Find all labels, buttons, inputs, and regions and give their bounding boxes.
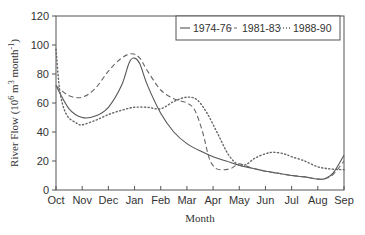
river-flow-chart: 020406080100120 OctNovDecJanFebMarAprMay… xyxy=(0,0,365,235)
plot-frame xyxy=(56,16,344,190)
y-tick-label: 120 xyxy=(31,10,49,22)
y-axis-title: River Flow (106 m3 month-1) xyxy=(7,39,21,167)
series-line-1988-90 xyxy=(56,49,344,169)
y-tick-label: 20 xyxy=(37,155,49,167)
y-tick-label: 80 xyxy=(37,68,49,80)
x-tick-label-jun: Jun xyxy=(257,194,275,206)
x-tick-label-jul: Jul xyxy=(285,194,299,206)
x-tick-label-feb: Feb xyxy=(151,194,170,206)
y-tick-label: 100 xyxy=(31,39,49,51)
x-tick-label-sep: Sep xyxy=(334,194,354,206)
y-axis: 020406080100120 xyxy=(31,10,56,196)
x-axis: OctNovDecJanFebMarAprMayJunJulAugSep xyxy=(47,186,353,206)
legend-label-1981-83: 1981-83 xyxy=(242,22,281,34)
x-tick-label-mar: Mar xyxy=(177,194,196,206)
series-line-1981-83 xyxy=(56,54,344,180)
y-tick-label: 40 xyxy=(37,126,49,138)
x-tick-label-jan: Jan xyxy=(126,194,144,206)
x-tick-label-apr: Apr xyxy=(205,194,222,206)
x-tick-label-oct: Oct xyxy=(47,194,64,206)
y-tick-label: 60 xyxy=(37,97,49,109)
legend-label-1974-76: 1974-76 xyxy=(193,22,232,34)
series-lines xyxy=(56,49,344,179)
x-axis-title: Month xyxy=(185,212,215,224)
x-tick-label-aug: Aug xyxy=(308,194,328,206)
legend-label-1988-90: 1988-90 xyxy=(293,22,332,34)
x-tick-label-dec: Dec xyxy=(99,194,119,206)
legend: 1974-761981-831988-90 xyxy=(176,16,340,40)
x-tick-label-nov: Nov xyxy=(72,194,92,206)
x-tick-label-may: May xyxy=(229,194,250,206)
